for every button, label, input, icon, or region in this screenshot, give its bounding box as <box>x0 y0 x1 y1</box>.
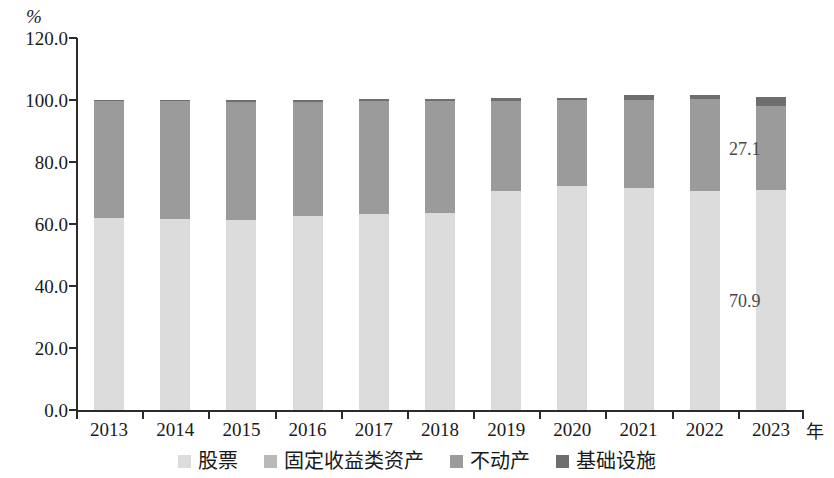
plot-area: 27.170.9 <box>76 38 804 412</box>
legend-item[interactable]: 股票 <box>178 450 238 472</box>
bar-segment[interactable] <box>624 95 654 100</box>
bar-segment[interactable] <box>425 101 455 213</box>
bar-segment[interactable] <box>359 214 389 410</box>
chart-legend: 股票固定收益类资产不动产基础设施 <box>0 450 834 472</box>
x-tick-label: 2013 <box>76 418 142 442</box>
data-label: 70.9 <box>729 292 761 310</box>
bar-group[interactable] <box>756 38 786 410</box>
y-tick-label: 0.0 <box>0 401 68 420</box>
bar-segment[interactable] <box>359 99 389 101</box>
bar-segment[interactable] <box>293 216 323 410</box>
bar-segment[interactable] <box>756 190 786 410</box>
bar-segment[interactable] <box>226 100 256 102</box>
legend-swatch-icon <box>264 455 277 468</box>
legend-item[interactable]: 不动产 <box>450 450 530 472</box>
bar-segment[interactable] <box>491 101 521 192</box>
bar-segment[interactable] <box>690 95 720 99</box>
y-tick-label: 60.0 <box>0 215 68 234</box>
x-tick-label: 2023 <box>738 418 804 442</box>
x-tick-label: 2017 <box>341 418 407 442</box>
bar-segment[interactable] <box>94 100 124 101</box>
bar-segment[interactable] <box>425 99 455 101</box>
legend-label: 固定收益类资产 <box>284 450 424 472</box>
bar-segment[interactable] <box>557 98 587 100</box>
legend-item[interactable]: 固定收益类资产 <box>264 450 424 472</box>
bar-segment[interactable] <box>425 213 455 410</box>
bar-segment[interactable] <box>491 191 521 410</box>
bar-group[interactable] <box>690 38 720 410</box>
legend-label: 基础设施 <box>576 450 656 472</box>
x-axis-tick-labels: 2013201420152016201720182019202020212022… <box>76 418 804 446</box>
bar-segment[interactable] <box>226 102 256 220</box>
x-axis-title: 年 <box>806 420 824 444</box>
bar-segment[interactable] <box>160 219 190 410</box>
x-tick-label: 2016 <box>275 418 341 442</box>
y-tick-label: 80.0 <box>0 153 68 172</box>
y-tick-label: 100.0 <box>0 91 68 110</box>
y-tick-label: 120.0 <box>0 29 68 48</box>
legend-swatch-icon <box>450 455 463 468</box>
bar-segment[interactable] <box>624 100 654 188</box>
bar-segment[interactable] <box>160 101 190 219</box>
bar-group[interactable] <box>425 38 455 410</box>
bar-group[interactable] <box>293 38 323 410</box>
y-axis-tick-labels: 120.0100.080.060.040.020.00.0 <box>0 38 68 412</box>
legend-label: 不动产 <box>470 450 530 472</box>
bar-group[interactable] <box>359 38 389 410</box>
bar-segment[interactable] <box>690 191 720 410</box>
bar-segment[interactable] <box>756 97 786 107</box>
bar-group[interactable] <box>491 38 521 410</box>
bar-group[interactable] <box>624 38 654 410</box>
bar-segment[interactable] <box>690 99 720 191</box>
bar-group[interactable] <box>160 38 190 410</box>
bar-segment[interactable] <box>293 100 323 102</box>
x-tick-label: 2018 <box>407 418 473 442</box>
legend-swatch-icon <box>178 455 191 468</box>
bar-segment[interactable] <box>491 98 521 100</box>
y-tick-label: 20.0 <box>0 339 68 358</box>
y-axis-unit-label: % <box>26 6 42 28</box>
bar-group[interactable] <box>226 38 256 410</box>
bar-segment[interactable] <box>226 220 256 410</box>
bar-segment[interactable] <box>160 100 190 101</box>
bar-segment[interactable] <box>756 106 786 190</box>
legend-item[interactable]: 基础设施 <box>556 450 656 472</box>
legend-swatch-icon <box>556 455 569 468</box>
bar-segment[interactable] <box>557 186 587 410</box>
bar-segment[interactable] <box>359 101 389 214</box>
bar-segment[interactable] <box>557 100 587 186</box>
bar-segment[interactable] <box>293 102 323 216</box>
x-tick-label: 2022 <box>672 418 738 442</box>
stacked-bar-chart: % 120.0100.080.060.040.020.00.0 27.170.9… <box>0 0 834 478</box>
x-tick-label: 2020 <box>539 418 605 442</box>
x-tick-label: 2019 <box>473 418 539 442</box>
legend-label: 股票 <box>198 450 238 472</box>
bar-series-container <box>76 38 804 412</box>
bar-segment[interactable] <box>94 218 124 410</box>
y-tick-label: 40.0 <box>0 277 68 296</box>
bar-segment[interactable] <box>624 188 654 410</box>
bar-group[interactable] <box>557 38 587 410</box>
x-tick-label: 2014 <box>142 418 208 442</box>
bar-segment[interactable] <box>94 101 124 218</box>
x-tick-label: 2021 <box>605 418 671 442</box>
data-label: 27.1 <box>729 140 761 158</box>
x-tick-label: 2015 <box>208 418 274 442</box>
bar-group[interactable] <box>94 38 124 410</box>
